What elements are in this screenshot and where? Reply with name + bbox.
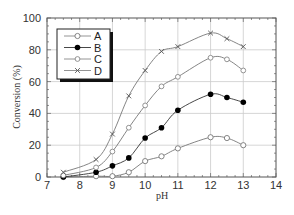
open-circle-marker (126, 170, 131, 175)
open-diamond-marker (94, 165, 99, 170)
filled-circle-marker (142, 135, 148, 141)
y-axis-title: Conversion (%) (11, 65, 23, 129)
open-circle-marker (143, 159, 148, 164)
y-tick-label: 80 (29, 44, 41, 56)
cross-marker (225, 36, 230, 41)
filled-circle-marker (175, 107, 181, 113)
legend-label: D (94, 65, 102, 77)
y-tick-label: 60 (29, 76, 41, 88)
open-diamond-marker (126, 125, 131, 130)
filled-circle-marker (240, 99, 246, 105)
filled-circle-marker (208, 92, 214, 98)
filled-circle-marker (75, 45, 81, 51)
open-diamond-marker (110, 149, 115, 154)
x-tick-label: 12 (204, 179, 216, 191)
series-b (61, 92, 247, 180)
open-circle-marker (110, 174, 115, 179)
filled-circle-marker (110, 163, 116, 169)
x-axis-title: pH (156, 190, 168, 201)
x-tick-label: 9 (109, 179, 115, 191)
series-a (61, 135, 246, 180)
x-tick-label: 13 (237, 179, 249, 191)
open-diamond-marker (225, 57, 230, 62)
y-tick-label: 20 (29, 139, 41, 151)
open-circle-marker (75, 33, 80, 38)
open-circle-marker (175, 146, 180, 151)
x-tick-label: 7 (44, 179, 50, 191)
legend-box (57, 29, 110, 79)
open-circle-marker (208, 135, 213, 140)
legend-label: A (94, 30, 102, 42)
filled-circle-marker (159, 125, 165, 131)
legend-label: B (94, 42, 101, 54)
open-circle-marker (159, 154, 164, 159)
y-axis-tick-labels: 020406080100 (23, 12, 41, 183)
open-diamond-marker (241, 68, 246, 73)
y-tick-label: 40 (29, 107, 41, 119)
open-diamond-marker (143, 103, 148, 108)
open-circle-marker (241, 143, 246, 148)
series-line (63, 94, 243, 177)
conversion-vs-ph-chart: 7891011121314 020406080100 pH Conversion… (0, 0, 294, 215)
open-diamond-marker (175, 74, 180, 79)
legend-label: C (94, 53, 102, 65)
y-tick-label: 100 (23, 12, 41, 24)
x-tick-label: 11 (172, 179, 183, 191)
series-line (63, 136, 243, 177)
filled-circle-marker (126, 155, 132, 161)
y-tick-label: 0 (35, 171, 41, 183)
cross-marker (126, 94, 131, 99)
filled-circle-marker (224, 95, 230, 101)
open-diamond-marker (208, 55, 213, 60)
x-tick-label: 14 (270, 179, 282, 191)
cross-marker (94, 157, 99, 162)
open-diamond-marker (75, 57, 80, 62)
legend: ABCD (57, 29, 113, 82)
x-tick-label: 10 (139, 179, 151, 191)
open-diamond-marker (159, 84, 164, 89)
x-tick-label: 8 (77, 179, 83, 191)
open-circle-marker (224, 135, 229, 140)
